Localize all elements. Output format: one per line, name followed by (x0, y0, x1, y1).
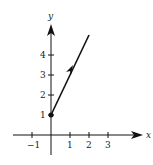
vector-line (51, 35, 89, 115)
y-tick-label: 4 (40, 50, 46, 60)
x-tick-label: −1 (27, 140, 40, 150)
y-ticks: 1 2 3 4 (40, 50, 54, 120)
start-point-dot (49, 113, 54, 118)
y-tick-label: 1 (40, 110, 46, 120)
y-tick-label: 3 (40, 70, 46, 80)
x-axis-label: x (146, 130, 151, 140)
y-axis-label: y (47, 11, 54, 21)
x-tick-label: 3 (105, 140, 111, 150)
x-tick-label: 1 (67, 140, 73, 150)
y-tick-label: 2 (40, 90, 46, 100)
coordinate-plane: x y −1 1 2 3 1 2 3 4 (0, 0, 153, 165)
direction-arrow-icon (66, 65, 73, 75)
x-tick-label: 2 (86, 140, 92, 150)
